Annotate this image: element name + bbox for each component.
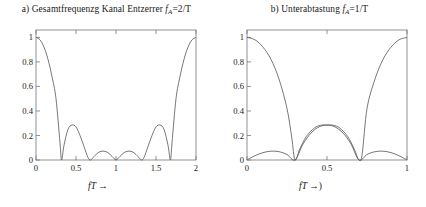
panel-b-ytick-marks <box>247 37 251 160</box>
figure-root: a) Gesamtfrequenzg Kanal Entzerrer fA=2/… <box>0 0 426 207</box>
panel-a-ytick-4: 0.8 <box>22 57 33 67</box>
panel-b-ytick-0: 0 <box>240 155 244 165</box>
panel-a-xaxis-arrow: → <box>98 181 108 191</box>
panel-b-xtick-1: 0.5 <box>322 163 333 173</box>
panel-a-xaxis-label: fT → <box>88 181 108 191</box>
panel-a-ytick-3: 0.6 <box>22 81 33 91</box>
panel-a-xtick-labels: 0 0.5 1 1.5 2 <box>34 163 198 173</box>
panel-a-ytick-0: 0 <box>29 155 33 165</box>
panel-b-ytick-labels: 0 0.2 0.4 0.6 0.8 1 <box>233 32 244 165</box>
panel-b-xtick-marks <box>247 30 407 160</box>
panel-a: a) Gesamtfrequenzg Kanal Entzerrer fA=2/… <box>0 0 213 207</box>
panel-b-xaxis-arrow: →) <box>309 181 322 191</box>
panel-a-xtick-0: 0 <box>34 163 38 173</box>
panel-a-plot: 0 0.2 0.4 0.6 0.8 1 0 <box>0 0 213 207</box>
panel-a-xtick-3: 1.5 <box>151 163 162 173</box>
panel-b-ytick-1: 0.2 <box>233 131 244 141</box>
panel-b-xtick-labels: 0 0.5 1 <box>245 163 409 173</box>
panel-b-ytick-4: 0.8 <box>233 57 244 67</box>
panel-a-ytick-5: 1 <box>29 32 33 42</box>
panel-b-curve-main <box>247 37 407 160</box>
panel-a-ytick-labels: 0 0.2 0.4 0.6 0.8 1 <box>22 32 33 165</box>
panel-b-axes-frame <box>247 30 407 160</box>
panel-b-ytick-3: 0.6 <box>233 81 244 91</box>
panel-b: b) Unterabtastung fA=1/T 0 0.2 0.4 0.6 0… <box>213 0 426 207</box>
panel-a-ytick-marks <box>36 37 40 160</box>
panel-b-xaxis-label-text: fT <box>299 181 307 191</box>
panel-b-ytick-5: 1 <box>240 32 244 42</box>
panel-a-ytick-1: 0.2 <box>22 131 33 141</box>
panel-b-xtick-2: 1 <box>405 163 409 173</box>
panel-a-xtick-2: 1 <box>114 163 118 173</box>
panel-a-curve-main <box>36 37 196 160</box>
panel-a-xaxis-label-text: fT <box>88 181 96 191</box>
panel-b-xtick-0: 0 <box>245 163 249 173</box>
panel-a-xtick-4: 2 <box>194 163 198 173</box>
panel-b-curve-secondary <box>247 125 407 160</box>
panel-b-plot: 0 0.2 0.4 0.6 0.8 1 0 0.5 1 <box>213 0 426 207</box>
panel-a-ytick-2: 0.4 <box>22 106 33 116</box>
panel-b-xaxis-label: fT →) <box>299 181 322 191</box>
panel-b-ytick-2: 0.4 <box>233 106 244 116</box>
panel-a-xtick-1: 0.5 <box>71 163 82 173</box>
